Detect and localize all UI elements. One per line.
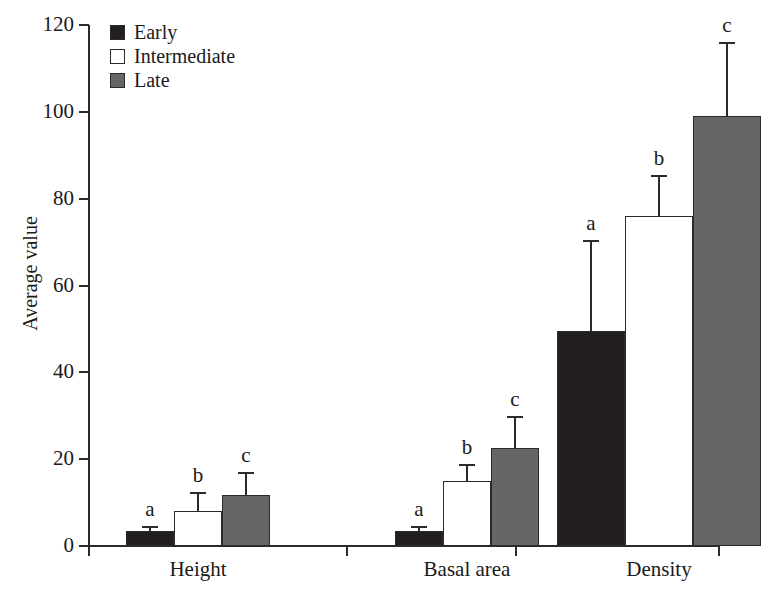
legend-label: Intermediate xyxy=(134,46,235,66)
error-bar-stem xyxy=(245,472,247,495)
error-bar-cap xyxy=(651,175,667,177)
error-bar-stem xyxy=(658,175,660,216)
legend-label: Late xyxy=(134,70,170,90)
x-axis-label-height: Height xyxy=(98,559,298,580)
bar-density-late xyxy=(693,116,761,546)
error-bar-stem xyxy=(197,492,199,512)
bar-height-intermediate xyxy=(174,511,222,546)
error-bar-cap xyxy=(238,472,254,474)
significance-letter: b xyxy=(183,465,213,486)
error-bar-cap xyxy=(411,526,427,528)
bar-basal-area-early xyxy=(395,531,443,546)
error-bar-cap xyxy=(142,526,158,528)
bar-basal-area-intermediate xyxy=(443,481,491,546)
bar-density-early xyxy=(557,331,625,546)
error-bar-cap xyxy=(459,464,475,466)
error-bar-stem xyxy=(514,416,516,449)
bar-height-late xyxy=(222,495,270,546)
error-bar-stem xyxy=(726,42,728,116)
significance-letter: a xyxy=(576,213,606,234)
x-axis-label-basal-area: Basal area xyxy=(367,559,567,580)
significance-letter: c xyxy=(231,445,261,466)
legend-item: Late xyxy=(110,68,235,92)
significance-letter: b xyxy=(644,148,674,169)
legend: EarlyIntermediateLate xyxy=(110,20,235,92)
x-axis-label-density: Density xyxy=(559,559,759,580)
significance-letter: c xyxy=(500,389,530,410)
significance-letter: a xyxy=(135,499,165,520)
error-bar-cap xyxy=(719,42,735,44)
black-square-icon xyxy=(110,25,125,40)
error-bar-cap xyxy=(507,416,523,418)
legend-item: Early xyxy=(110,20,235,44)
white-square-icon xyxy=(110,49,125,64)
significance-letter: b xyxy=(452,437,482,458)
error-bar-stem xyxy=(466,464,468,481)
legend-item: Intermediate xyxy=(110,44,235,68)
error-bar-stem xyxy=(590,240,592,331)
significance-letter: a xyxy=(404,499,434,520)
legend-label: Early xyxy=(134,22,177,42)
error-bar-cap xyxy=(583,240,599,242)
bar-height-early xyxy=(126,531,174,546)
error-bar-cap xyxy=(190,492,206,494)
significance-letter: c xyxy=(712,15,742,36)
gray-square-icon xyxy=(110,73,125,88)
bar-basal-area-late xyxy=(491,448,539,546)
bar-density-intermediate xyxy=(625,216,693,546)
